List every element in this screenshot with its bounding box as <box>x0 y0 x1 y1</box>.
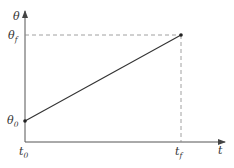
start-point <box>23 119 27 123</box>
t-f-label: tf <box>175 145 183 160</box>
trajectory-diagram: θ θf θ0 t0 tf t <box>0 0 234 168</box>
y-axis-label: θ <box>13 10 20 23</box>
t-0-label: t0 <box>19 145 28 160</box>
end-point <box>179 33 183 37</box>
x-axis-label: t <box>218 144 223 157</box>
theta-f-label: θf <box>8 29 19 44</box>
trajectory-line <box>25 35 181 121</box>
theta-0-label: θ0 <box>7 114 19 129</box>
